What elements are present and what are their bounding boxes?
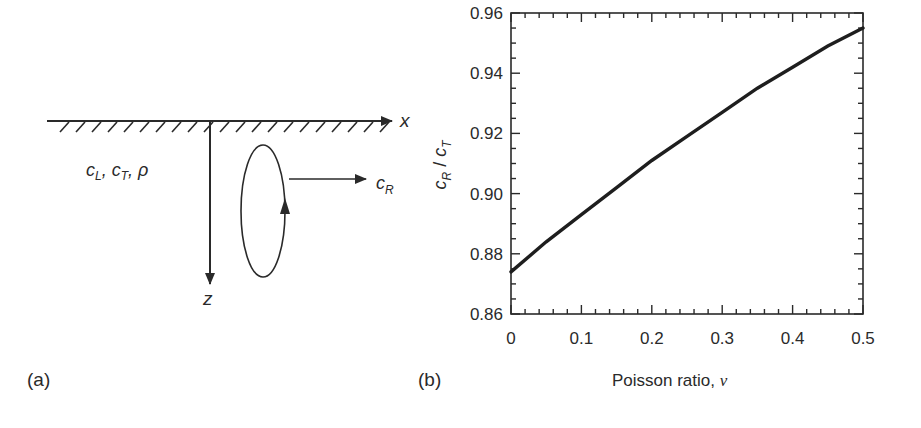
y-axis-label: cR / cT bbox=[430, 139, 454, 190]
y-tick-label: 0.90 bbox=[470, 185, 503, 204]
panel-a-diagram: x z cL, cT, ρ cR (a) bbox=[27, 110, 411, 390]
panel-b-chart: 0.860.880.900.920.940.96 00.10.20.30.40.… bbox=[418, 4, 875, 390]
x-tick-label: 0.3 bbox=[710, 329, 734, 348]
z-axis-label: z bbox=[202, 288, 213, 309]
y-tick-label: 0.88 bbox=[470, 245, 503, 264]
x-tick-label: 0.1 bbox=[570, 329, 594, 348]
y-tick-label: 0.92 bbox=[470, 124, 503, 143]
y-tick-label: 0.96 bbox=[470, 4, 503, 23]
rayleigh-speed-label: cR bbox=[376, 173, 394, 197]
x-tick-labels: 00.10.20.30.40.5 bbox=[506, 329, 875, 348]
particle-motion-ellipse bbox=[241, 145, 285, 277]
y-tick-labels: 0.860.880.900.920.940.96 bbox=[470, 4, 503, 324]
x-tick-label: 0.4 bbox=[781, 329, 805, 348]
x-tick-label: 0 bbox=[506, 329, 515, 348]
panel-a-label: (a) bbox=[27, 369, 50, 390]
surface-hatching bbox=[60, 122, 389, 132]
x-axis-label: Poisson ratio, ν bbox=[612, 371, 728, 390]
x-axis-label: x bbox=[399, 110, 411, 131]
y-tick-label: 0.94 bbox=[470, 64, 503, 83]
panel-b-label: (b) bbox=[418, 369, 441, 390]
y-tick-label: 0.86 bbox=[470, 305, 503, 324]
data-line bbox=[511, 28, 863, 272]
motion-direction-arrow-icon bbox=[280, 198, 290, 214]
x-tick-label: 0.5 bbox=[851, 329, 875, 348]
figure: x z cL, cT, ρ cR (a) 0.860.880.900.920.9… bbox=[0, 0, 921, 428]
x-tick-label: 0.2 bbox=[640, 329, 664, 348]
material-params-label: cL, cT, ρ bbox=[86, 160, 148, 183]
